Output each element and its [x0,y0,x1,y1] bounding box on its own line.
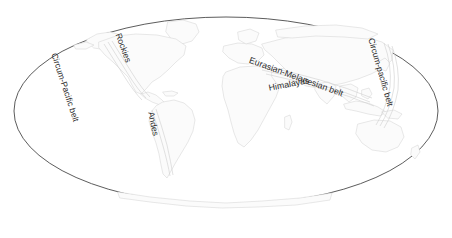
world-map-svg [0,0,452,238]
world-map-figure: Circum-Pacific belt Rockies Andes Eurasi… [0,0,452,238]
